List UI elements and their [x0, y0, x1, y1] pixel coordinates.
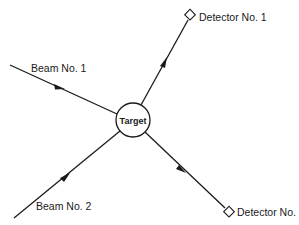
- target-label: Target: [120, 116, 147, 126]
- detector-1-label: Detector No. 1: [199, 11, 267, 23]
- detector-1-diamond-icon: [185, 9, 196, 20]
- detector-2: Detector No. 2: [224, 206, 299, 218]
- beam-2-label: Beam No. 2: [36, 200, 92, 212]
- beam-1-arrow-icon: [54, 84, 65, 90]
- scatter-path-1: [141, 20, 188, 105]
- detector-2-diamond-icon: [224, 206, 235, 217]
- detector-2-label: Detector No. 2: [237, 206, 299, 218]
- beam-1-label: Beam No. 1: [31, 62, 87, 74]
- scatter-1-arrow-icon: [160, 57, 167, 68]
- beam-2-arrow-icon: [60, 173, 70, 182]
- target: Target: [116, 103, 150, 137]
- beam-2: Beam No. 2: [14, 131, 120, 218]
- scatter-path-2: [145, 132, 225, 208]
- detector-1: Detector No. 1: [185, 9, 267, 23]
- scattering-diagram: Beam No. 1 Beam No. 2 Target Detector No…: [0, 0, 299, 225]
- beam-1: Beam No. 1: [10, 62, 117, 114]
